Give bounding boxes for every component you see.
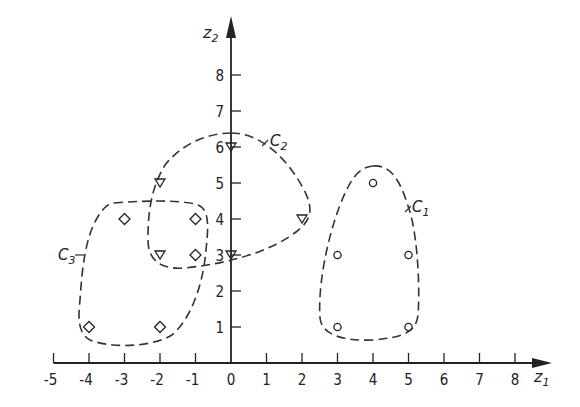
triangle-marker-icon	[155, 179, 165, 187]
x-tick-label: -3	[115, 371, 128, 389]
cluster-label-c3: C3	[58, 246, 84, 267]
y-tick-label: 5	[215, 175, 224, 193]
circle-marker-icon	[369, 179, 376, 186]
x-tick-label: 7	[475, 371, 484, 389]
data-markers	[84, 143, 413, 333]
circle-marker-icon	[405, 251, 412, 258]
y-tick-label: 6	[215, 139, 224, 157]
y-axis-label: z2	[202, 23, 218, 45]
y-tick-label: 2	[215, 283, 224, 301]
circle-marker-icon	[334, 323, 341, 330]
svg-text:C2: C2	[270, 132, 287, 153]
diamond-marker-icon	[155, 322, 166, 333]
cluster-label-c1: C1	[405, 198, 429, 219]
x-tick-label: -5	[44, 371, 57, 389]
cluster-boundaries	[79, 133, 419, 345]
x-tick-label: 3	[333, 371, 342, 389]
x-tick-label: -1	[186, 371, 199, 389]
triangle-marker-icon	[155, 251, 165, 259]
y-tick-label: 8	[215, 67, 224, 85]
x-tick-label: 6	[440, 371, 449, 389]
x-tick-label: 4	[369, 371, 378, 389]
x-tick-label: -2	[150, 371, 163, 389]
diamond-marker-icon	[119, 214, 130, 225]
y-tick-label: 7	[215, 103, 224, 121]
y-tick-label: 4	[215, 211, 224, 229]
x-tick-label: 0	[227, 371, 236, 389]
x-tick-label: 2	[298, 371, 307, 389]
cluster-scatter-plot: -5-4-3-2-101234567812345678 C1 C2 C3 z1 …	[0, 0, 580, 407]
y-axis-arrow-icon	[226, 16, 236, 38]
cluster-label-c2: C2	[262, 132, 287, 153]
diamond-marker-icon	[84, 322, 95, 333]
y-tick-label: 1	[215, 319, 224, 337]
x-tick-label: -4	[79, 371, 92, 389]
svg-text:C1: C1	[412, 198, 429, 219]
cluster-c3-boundary	[79, 201, 208, 345]
x-tick-label: 1	[262, 371, 271, 389]
x-tick-label: 5	[404, 371, 413, 389]
circle-marker-icon	[334, 251, 341, 258]
circle-marker-icon	[405, 323, 412, 330]
x-axis-label: z1	[533, 367, 549, 389]
x-tick-label: 8	[511, 371, 520, 389]
diamond-marker-icon	[190, 250, 201, 261]
diamond-marker-icon	[190, 214, 201, 225]
svg-text:C3: C3	[58, 246, 75, 267]
